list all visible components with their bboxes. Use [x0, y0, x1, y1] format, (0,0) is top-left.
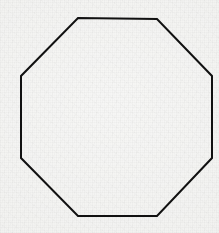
octagon-outline	[21, 18, 212, 216]
image-canvas	[0, 0, 219, 233]
octagon-figure	[0, 0, 219, 233]
